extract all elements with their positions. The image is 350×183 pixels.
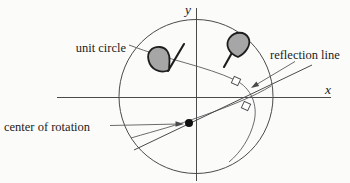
right-angle-marker-lower (241, 101, 250, 110)
flag-original-pole (168, 44, 184, 71)
flag-reflected (224, 33, 249, 67)
unit-circle-reflection-diagram: unit circle reflection line center of ro… (0, 0, 350, 183)
reflection-line-shape (134, 65, 312, 150)
reflection-line-label: reflection line (270, 48, 340, 62)
center-of-rotation-label: center of rotation (4, 120, 91, 134)
unit-circle-label: unit circle (76, 41, 127, 55)
x-axis-label: x (324, 82, 331, 97)
rotation-arc-upper (129, 45, 255, 162)
y-axis-label: y (183, 2, 191, 17)
flag-original (148, 44, 184, 72)
flag-reflected-body (227, 33, 249, 57)
flag-original-body (148, 47, 169, 72)
right-angle-marker-upper (231, 76, 240, 85)
center-of-rotation-dot (185, 119, 193, 127)
diagram-canvas: unit circle reflection line center of ro… (0, 0, 350, 183)
